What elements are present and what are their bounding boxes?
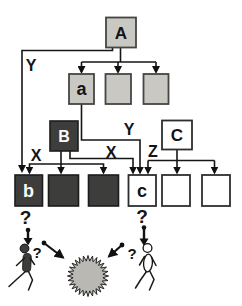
node-A-label: A <box>115 24 127 43</box>
dark-figure-body <box>22 253 31 272</box>
down-arrow-left <box>24 228 33 246</box>
edge-X-B-to-c <box>70 151 133 173</box>
hierarchy-diagram: Y Y X X Z A a B C b c ? ? <box>0 0 242 306</box>
starburst <box>68 256 109 297</box>
question-mark-below-c: ? <box>136 206 148 227</box>
node-c-label: c <box>137 181 147 201</box>
down-arrow-right <box>140 225 149 246</box>
diagonal-arrow-left <box>42 241 63 258</box>
question-mark-below-b: ? <box>20 207 32 228</box>
white-box-3 <box>202 175 230 206</box>
edge-label-x-right: X <box>106 144 117 161</box>
edge-Y-a-to-c <box>82 104 141 173</box>
dark-figure-leg-left <box>9 272 26 287</box>
node-a-label: a <box>76 79 87 99</box>
edge-label-y-mid: Y <box>124 121 135 138</box>
diagonal-arrow-right <box>109 243 124 257</box>
edge-label-x-left: X <box>31 147 42 164</box>
diagonal-arrow-right-shaft <box>109 245 122 257</box>
light-stick-figure <box>136 244 157 290</box>
edge-X-B-to-b <box>30 164 62 173</box>
edge-label-y-left: Y <box>26 57 37 74</box>
dark-figure-leg-right <box>29 272 33 291</box>
light-figure-leg-right <box>150 272 155 291</box>
edge-label-z: Z <box>148 143 158 160</box>
node-C-label: C <box>171 126 183 145</box>
white-box-2 <box>162 175 190 206</box>
dark-figure-head <box>20 244 29 253</box>
question-mark-right-figure: ? <box>127 245 136 262</box>
node-B-label: B <box>58 128 70 145</box>
dark-stick-figure <box>9 244 35 290</box>
diagonal-arrow-left-shaft <box>44 243 63 258</box>
question-mark-left-figure: ? <box>32 244 41 261</box>
edges <box>22 48 215 173</box>
gray-box-2 <box>106 74 132 104</box>
gray-box-3 <box>144 74 169 104</box>
light-figure-head <box>143 244 152 253</box>
dark-box-2 <box>49 175 79 206</box>
node-b-label: b <box>23 181 34 201</box>
dark-box-3 <box>89 175 119 206</box>
edge-X-B-to-dark3 <box>61 164 104 173</box>
light-figure-leg-left <box>136 272 147 289</box>
